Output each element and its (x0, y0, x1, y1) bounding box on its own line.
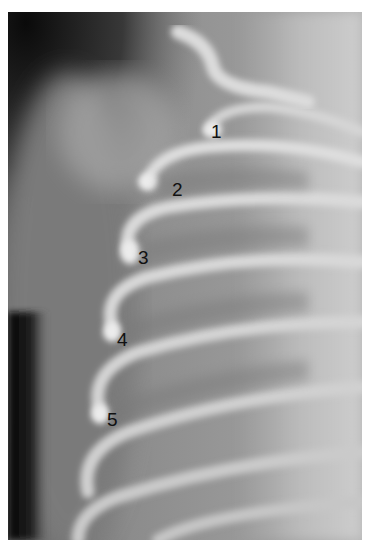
rib-label-5: 5 (107, 410, 118, 429)
radiograph-image: 1 2 3 4 5 (8, 12, 362, 540)
rib-label-1: 1 (211, 122, 222, 141)
rib-label-2: 2 (172, 180, 183, 199)
radiograph-rendering (8, 12, 362, 540)
cropped-caption (0, 0, 372, 12)
rib-label-3: 3 (138, 248, 149, 267)
rib-label-4: 4 (117, 330, 128, 349)
